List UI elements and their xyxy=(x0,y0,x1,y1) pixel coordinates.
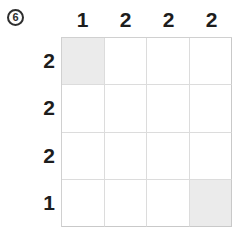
row-clue-4: 1 xyxy=(22,180,59,228)
grid-cell-r4-c2[interactable] xyxy=(105,180,148,227)
grid-cell-r1-c1[interactable] xyxy=(62,38,105,85)
circled-number-icon: 6 xyxy=(7,9,24,26)
column-clue-strip: 1 2 2 2 xyxy=(61,4,233,35)
puzzle-grid xyxy=(61,37,232,227)
grid-cell-r4-c4[interactable] xyxy=(190,180,233,227)
grid-cell-r2-c4[interactable] xyxy=(190,85,233,132)
grid-cell-r1-c3[interactable] xyxy=(147,38,190,85)
column-clue-1: 1 xyxy=(61,4,104,35)
grid-cell-r4-c3[interactable] xyxy=(147,180,190,227)
column-clue-3: 2 xyxy=(147,4,190,35)
grid-cell-r2-c3[interactable] xyxy=(147,85,190,132)
row-clue-1: 2 xyxy=(22,37,59,85)
grid-cell-r3-c3[interactable] xyxy=(147,133,190,180)
grid-cell-r2-c1[interactable] xyxy=(62,85,105,132)
row-clue-strip: 2 2 2 1 xyxy=(22,37,59,227)
grid-cell-r1-c4[interactable] xyxy=(190,38,233,85)
grid-cell-r3-c1[interactable] xyxy=(62,133,105,180)
column-clue-4: 2 xyxy=(190,4,233,35)
grid-cell-r4-c1[interactable] xyxy=(62,180,105,227)
row-clue-3: 2 xyxy=(22,132,59,180)
grid-cell-r3-c4[interactable] xyxy=(190,133,233,180)
grid-cell-r3-c2[interactable] xyxy=(105,133,148,180)
row-clue-2: 2 xyxy=(22,85,59,133)
puzzle-grid-widget: 6 1 2 2 2 2 2 2 1 xyxy=(0,0,246,233)
grid-cell-r2-c2[interactable] xyxy=(105,85,148,132)
grid-cell-r1-c2[interactable] xyxy=(105,38,148,85)
column-clue-2: 2 xyxy=(104,4,147,35)
